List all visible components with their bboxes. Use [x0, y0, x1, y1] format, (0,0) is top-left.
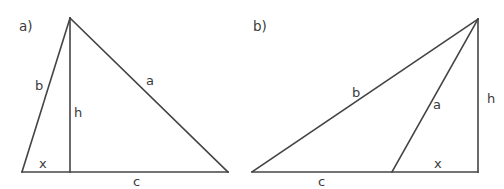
- geometry-vector-layer: [0, 0, 504, 189]
- panel-b-base-c-label: c: [318, 175, 325, 188]
- diagram-canvas: a) b h a x c b) b a h x c: [0, 0, 504, 189]
- panel-a-side-a-label: a: [146, 74, 154, 87]
- panel-a-tag: a): [19, 20, 33, 34]
- panel-a-triangle: [22, 18, 228, 172]
- panel-b-angle-x-label: x: [434, 157, 442, 170]
- panel-b-triangle: [252, 19, 478, 172]
- panel-a-side-a: [70, 18, 228, 172]
- panel-a-base-c-label: c: [133, 175, 140, 188]
- panel-b-tag: b): [253, 20, 267, 34]
- panel-a-side-b-label: b: [35, 79, 43, 92]
- panel-a-height-h-label: h: [74, 106, 82, 119]
- panel-b-height-h-label: h: [487, 92, 495, 105]
- panel-b-side-b-label: b: [352, 86, 360, 99]
- panel-b-side-a: [392, 19, 478, 172]
- panel-b-side-b: [252, 19, 478, 172]
- panel-a-angle-x-label: x: [39, 157, 47, 170]
- panel-b-side-a-label: a: [433, 98, 441, 111]
- panel-a-side-b: [22, 18, 70, 172]
